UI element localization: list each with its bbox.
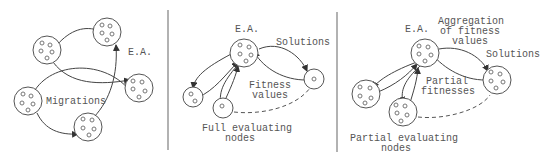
evaluating-node	[183, 87, 203, 107]
label-solutions: Solutions	[276, 37, 330, 48]
label-fitness-values-2: values	[252, 90, 288, 101]
partial-evaluating-node	[352, 80, 380, 108]
solution-arrow	[373, 62, 417, 88]
label-aggregation-3: values	[452, 36, 488, 47]
label-partial-fitnesses-2: fitnesses	[421, 86, 475, 97]
fitness-arrow	[226, 66, 238, 98]
panel-island-model: E.A. Migrations	[14, 18, 153, 141]
diagram-canvas: E.A. Migrations	[0, 0, 545, 163]
panel-full-evaluation: E.A. Solutions Fitness values Full evalu…	[183, 24, 330, 144]
dashed-connection	[418, 95, 490, 118]
solutions-node	[304, 69, 324, 89]
label-ea: E.A.	[405, 24, 429, 35]
ea-node	[230, 39, 258, 67]
label-ea: E.A.	[128, 47, 152, 58]
fitness-arrow	[197, 62, 238, 98]
solutions-node	[483, 66, 511, 94]
population-node	[125, 74, 153, 102]
ea-node	[411, 39, 439, 67]
migration-arrow	[37, 113, 78, 134]
panel-partial-evaluation: E.A. Aggregation of fitness values Solut…	[350, 16, 540, 154]
population-node	[93, 18, 121, 46]
solution-arrow	[259, 46, 307, 71]
partial-evaluating-node	[389, 98, 417, 126]
fitness-arrow	[254, 52, 306, 80]
evaluating-node	[213, 98, 233, 118]
population-node	[74, 113, 102, 141]
label-migrations: Migrations	[46, 96, 106, 107]
label-ea: E.A.	[235, 24, 259, 35]
label-solutions: Solutions	[486, 49, 540, 60]
population-node	[14, 87, 42, 115]
population-node	[33, 36, 61, 64]
solution-arrow	[193, 52, 235, 88]
label-full-evaluating-2: nodes	[225, 133, 255, 144]
label-partial-evaluating-2: nodes	[381, 143, 411, 154]
